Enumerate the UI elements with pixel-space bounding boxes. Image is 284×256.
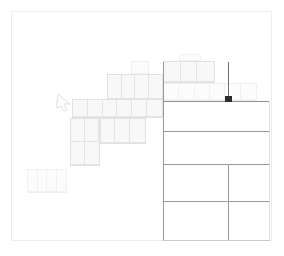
mouse-cursor-icon xyxy=(56,94,72,112)
cell xyxy=(195,84,210,100)
table-row-divider xyxy=(163,201,270,202)
cell xyxy=(73,100,88,117)
cell xyxy=(103,100,118,117)
cell xyxy=(149,75,163,99)
cell xyxy=(179,84,194,100)
cell xyxy=(147,100,162,117)
block-corner-box[interactable] xyxy=(27,169,67,193)
cell xyxy=(132,100,147,117)
cell xyxy=(88,100,103,117)
header-rule xyxy=(163,101,270,102)
drawing-canvas[interactable] xyxy=(0,0,284,256)
cell xyxy=(108,75,122,99)
table-row-divider xyxy=(163,240,270,241)
cell xyxy=(164,84,179,100)
table-right-edge xyxy=(269,101,270,240)
cell xyxy=(117,100,132,117)
cell xyxy=(132,62,148,74)
cell xyxy=(115,119,130,143)
table-row-divider xyxy=(163,164,270,165)
table-left-edge xyxy=(163,62,164,240)
cell xyxy=(197,62,214,82)
cell xyxy=(71,119,85,142)
block-mid-upper[interactable] xyxy=(107,74,163,100)
cell xyxy=(101,119,116,143)
cell xyxy=(28,170,38,192)
block-top-band-right[interactable] xyxy=(163,61,215,83)
table-row-divider xyxy=(163,131,270,132)
table-column-split xyxy=(228,164,229,240)
cell xyxy=(47,170,57,192)
cell xyxy=(71,142,85,165)
cell xyxy=(135,75,149,99)
cell xyxy=(210,84,225,100)
cell xyxy=(57,170,67,192)
cell xyxy=(130,119,145,143)
cell xyxy=(122,75,136,99)
selected-cell-marker[interactable] xyxy=(225,96,232,102)
cell xyxy=(181,62,198,82)
screenshot-root xyxy=(0,0,284,256)
cell xyxy=(85,119,99,142)
cell xyxy=(241,84,256,100)
block-small-floater[interactable] xyxy=(131,61,149,75)
cell xyxy=(38,170,48,192)
cell xyxy=(85,142,99,165)
cell xyxy=(164,62,181,82)
block-mid-row[interactable] xyxy=(72,99,163,118)
block-top-right-row[interactable] xyxy=(163,83,257,101)
block-left-column[interactable] xyxy=(70,118,100,166)
